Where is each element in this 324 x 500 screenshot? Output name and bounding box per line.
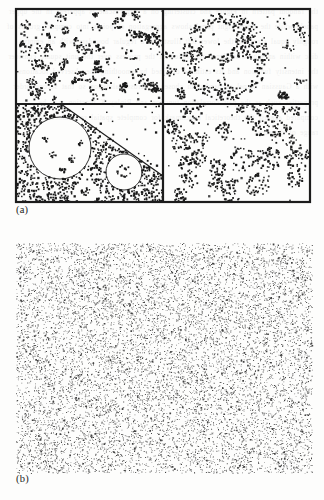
panel-b-label: (b): [16, 473, 29, 484]
quadrant-top-right-annulus: [163, 13, 311, 101]
figure-canvas: [0, 0, 324, 500]
quadrant-bottom-right-scattered-discs: [162, 99, 311, 204]
panel-b-point-cloud: [16, 243, 313, 474]
spatial-point-pattern-figure: [0, 0, 324, 500]
panel-a: [16, 9, 312, 204]
quadrant-top-left-small-clusters: [17, 9, 164, 104]
void-outline: [106, 154, 142, 190]
panel-a-label: (a): [16, 204, 28, 215]
diagonal-boundary-line: [61, 104, 163, 176]
panel-b: [16, 243, 313, 474]
quadrant-bottom-left-dense-with-void: [16, 104, 164, 203]
